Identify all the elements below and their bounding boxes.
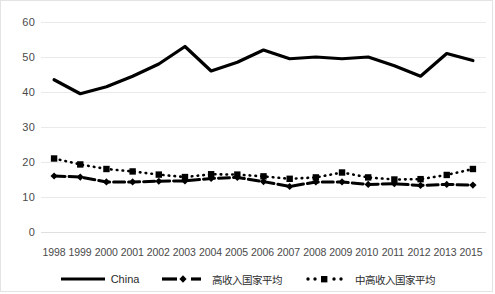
x-axis-tick: 2007 (276, 246, 302, 266)
data-point-marker (103, 166, 109, 172)
y-axis: 6050403020100 (1, 1, 41, 246)
data-point-marker (391, 176, 397, 182)
data-point-marker (286, 183, 293, 190)
data-point-marker (365, 181, 372, 188)
x-axis-tick: 2010 (354, 246, 380, 266)
data-point-marker (234, 171, 240, 177)
x-axis-tick: 2015 (458, 246, 484, 266)
y-axis-tick: 10 (22, 191, 35, 203)
y-axis-tick: 0 (29, 226, 35, 238)
data-point-marker (156, 171, 162, 177)
legend-item-high-income[interactable]: 高收入国家平均 (161, 272, 282, 287)
x-axis-tick: 2006 (250, 246, 276, 266)
data-point-marker (469, 182, 476, 189)
data-point-marker (339, 169, 345, 175)
x-axis-tick: 2011 (380, 246, 406, 266)
legend-item-china[interactable]: China (60, 273, 140, 285)
data-point-marker (182, 174, 188, 180)
data-point-marker (260, 173, 266, 179)
dot-square-key (304, 273, 350, 285)
x-axis-tick: 2004 (197, 246, 223, 266)
x-axis: 1998199920002001200220032004200520062007… (41, 246, 484, 266)
x-axis-tick: 1998 (41, 246, 67, 266)
y-axis-tick: 40 (22, 86, 35, 98)
data-point-marker (417, 182, 424, 189)
legend-label-upper-middle-income: 中高收入国家平均 (355, 272, 435, 287)
solid-line-key (60, 273, 106, 285)
data-point-marker (103, 178, 110, 185)
y-axis-tick: 20 (22, 156, 35, 168)
legend-label-high-income: 高收入国家平均 (212, 272, 282, 287)
data-point-marker (365, 174, 371, 180)
dash-diamond-key (161, 273, 207, 285)
series-3 (51, 155, 476, 182)
data-point-marker (50, 172, 57, 179)
legend-item-upper-middle-income[interactable]: 中高收入国家平均 (304, 272, 435, 287)
y-axis-tick: 30 (22, 121, 35, 133)
legend-label-china: China (111, 273, 140, 285)
data-point-marker (129, 178, 136, 185)
data-point-marker (417, 176, 423, 182)
plot-area (41, 1, 486, 246)
x-axis-tick: 2001 (119, 246, 145, 266)
x-axis-tick: 2003 (171, 246, 197, 266)
x-axis-tick: 2000 (93, 246, 119, 266)
data-point-marker (313, 174, 319, 180)
x-axis-tick: 2013 (432, 246, 458, 266)
x-axis-tick: 2005 (223, 246, 249, 266)
data-point-marker (77, 161, 83, 167)
chart-legend: China 高收入国家平均 中高收入国家平均 (1, 267, 493, 291)
data-point-marker (470, 166, 476, 172)
line-chart: 6050403020100 19981999200020012002200320… (0, 0, 493, 292)
data-point-marker (338, 178, 345, 185)
data-point-marker (51, 155, 57, 161)
y-axis-tick: 50 (22, 51, 35, 63)
x-axis-tick: 2009 (328, 246, 354, 266)
x-axis-tick: 2012 (406, 246, 432, 266)
data-point-marker (155, 178, 162, 185)
data-point-marker (208, 171, 214, 177)
x-axis-tick: 1999 (67, 246, 93, 266)
data-point-marker (129, 168, 135, 174)
data-point-marker (286, 176, 292, 182)
y-axis-tick: 60 (22, 16, 35, 28)
series-layer (41, 1, 486, 246)
x-axis-tick: 2008 (302, 246, 328, 266)
plot-wrapper: 6050403020100 (1, 1, 493, 246)
data-point-marker (444, 172, 450, 178)
data-point-marker (443, 181, 450, 188)
series-1 (54, 47, 473, 94)
x-axis-tick: 2002 (145, 246, 171, 266)
data-point-marker (77, 173, 84, 180)
